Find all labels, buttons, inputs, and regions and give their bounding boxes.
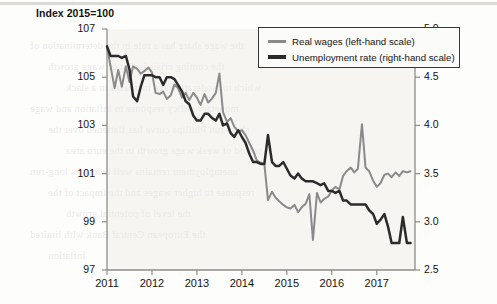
y-axis-tick-label: 105 (61, 70, 95, 82)
y-axis-right-tick-label: 3.0 (424, 215, 458, 227)
line-swatch-icon (268, 55, 286, 59)
legend-item-unemployment-rate: Unemployment rate (right-hand scale) (268, 49, 459, 65)
legend-item-real-wages: Real wages (left-hand scale) (268, 33, 459, 49)
figure-chart: the wage share has a role in the determi… (0, 0, 497, 304)
y-axis-right-tick-label: 2.5 (424, 263, 458, 275)
legend-label: Unemployment rate (right-hand scale) (292, 52, 455, 63)
x-axis-tick-label: 2013 (174, 277, 220, 289)
y-axis-tick-label: 101 (61, 167, 95, 179)
x-axis-tick-label: 2015 (264, 277, 310, 289)
y-axis-tick-label: 99 (61, 215, 95, 227)
y-axis-tick-label: 103 (61, 118, 95, 130)
x-axis-tick-label: 2017 (354, 277, 400, 289)
y-axis-right-tick-label: 4.0 (424, 118, 458, 130)
legend-label: Real wages (left-hand scale) (292, 36, 415, 47)
y-axis-right-tick-label: 4.5 (424, 70, 458, 82)
line-swatch-icon (268, 40, 286, 43)
y-axis-tick-label: 107 (61, 22, 95, 34)
y-axis-tick-label: 97 (61, 263, 95, 275)
x-axis-tick-label: 2012 (129, 277, 175, 289)
x-axis-tick-label: 2011 (84, 277, 130, 289)
x-axis-tick-label: 2014 (219, 277, 265, 289)
chart-legend: Real wages (left-hand scale) Unemploymen… (258, 27, 460, 68)
y-axis-right-tick-label: 3.5 (424, 167, 458, 179)
series-line (107, 46, 411, 243)
x-axis-tick-label: 2016 (309, 277, 355, 289)
